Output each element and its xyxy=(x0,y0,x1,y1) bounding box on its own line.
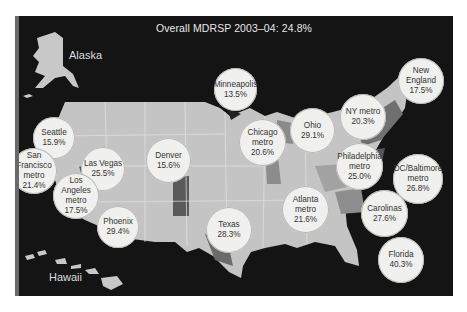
region-bubble: LosAngelesmetro17.5% xyxy=(53,173,99,219)
region-name: Francisco xyxy=(16,161,52,171)
region-name: Chicago xyxy=(247,128,277,138)
region-name: England xyxy=(406,76,436,86)
region-value: 26.8% xyxy=(406,184,429,194)
region-bubble: Atlantametro21.6% xyxy=(282,186,329,233)
region-bubble: Minneapolis13.5% xyxy=(214,68,257,111)
region-name: Minneapolis xyxy=(214,80,258,90)
region-name: Los xyxy=(69,176,82,186)
region-name: DC/Baltimore xyxy=(394,164,443,174)
region-bubble: Ohio29.1% xyxy=(290,108,335,153)
region-value: 21.4% xyxy=(22,181,45,191)
region-value: 21.6% xyxy=(294,215,317,225)
region-value: 25.0% xyxy=(348,172,371,182)
region-name: San xyxy=(27,151,42,161)
region-name: metro xyxy=(349,162,370,172)
region-name: Denver xyxy=(155,151,181,161)
region-value: 15.9% xyxy=(42,138,65,148)
region-bubble: Carolinas27.6% xyxy=(361,190,408,237)
region-value: 20.3% xyxy=(351,117,374,127)
region-bubble: Chicagometro20.6% xyxy=(239,119,286,166)
region-bubble: Phoenix29.4% xyxy=(97,206,139,248)
region-name: Seattle xyxy=(41,128,67,138)
region-value: 15.6% xyxy=(157,161,180,171)
region-name: Ohio xyxy=(304,121,321,131)
region-name: Carolinas xyxy=(367,204,402,214)
region-value: 13.5% xyxy=(224,90,247,100)
frame-edge xyxy=(15,16,19,296)
region-value: 27.6% xyxy=(373,214,396,224)
region-value: 25.5% xyxy=(91,169,114,179)
region-name: Philadelphia xyxy=(337,152,382,162)
region-name: metro xyxy=(252,138,273,148)
region-bubble: Florida40.3% xyxy=(378,237,424,283)
region-value: 40.3% xyxy=(389,260,412,270)
region-name: Phoenix xyxy=(103,217,133,227)
region-bubble: NY metro20.3% xyxy=(340,94,386,140)
region-bubble: NewEngland17.5% xyxy=(398,58,444,104)
region-name: Atlanta xyxy=(293,195,319,205)
region-name: metro xyxy=(408,174,429,184)
region-name: Angeles xyxy=(61,186,91,196)
region-name: New xyxy=(413,66,429,76)
region-bubble: Texas28.3% xyxy=(206,207,252,253)
region-value: 17.5% xyxy=(64,206,87,216)
region-name: metro xyxy=(295,205,316,215)
region-name: metro xyxy=(24,171,45,181)
alaska-label: Alaska xyxy=(69,49,102,61)
region-name: NY metro xyxy=(346,107,380,117)
region-value: 28.3% xyxy=(217,230,240,240)
hawaii-islands xyxy=(25,250,123,290)
region-name: Florida xyxy=(388,250,413,260)
region-name: metro xyxy=(66,196,87,206)
region-value: 29.1% xyxy=(301,131,324,141)
region-bubble: Denver15.6% xyxy=(146,138,191,183)
region-value: 17.5% xyxy=(409,86,432,96)
map-panel: Overall MDRSP 2003–04: 24.8% Alaska Hawa… xyxy=(15,16,453,296)
map-title: Overall MDRSP 2003–04: 24.8% xyxy=(15,22,453,34)
hawaii-label: Hawaii xyxy=(49,271,82,283)
region-bubble: Philadelphiametro25.0% xyxy=(336,143,383,190)
region-name: Las Vegas xyxy=(84,159,122,169)
region-value: 29.4% xyxy=(106,227,129,237)
region-value: 20.6% xyxy=(251,148,274,158)
region-name: Texas xyxy=(218,220,239,230)
